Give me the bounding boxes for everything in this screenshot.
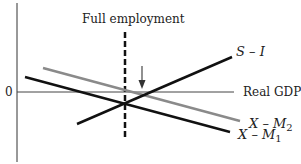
twin-deficits-diagram: 0 Real GDP Full employment S – I X – M2 … bbox=[0, 0, 301, 164]
down-arrow-icon bbox=[139, 66, 146, 89]
x-axis-label: Real GDP bbox=[243, 85, 301, 99]
s-minus-i-curve bbox=[77, 57, 232, 124]
full-employment-label: Full employment bbox=[82, 12, 185, 26]
x-minus-m1-curve bbox=[25, 77, 230, 132]
zero-label: 0 bbox=[5, 85, 13, 99]
x-minus-m1-label: X – M1 bbox=[237, 127, 282, 144]
s-minus-i-label: S – I bbox=[236, 44, 266, 59]
